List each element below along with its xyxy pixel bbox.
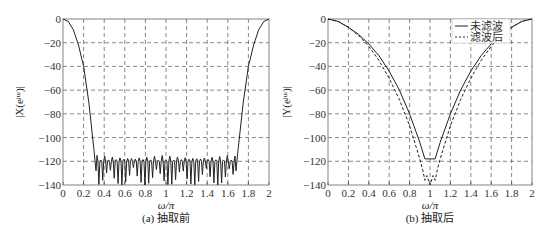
x-tick-label: 1 <box>427 187 433 199</box>
x-axis-label: ω/π <box>158 199 175 211</box>
y-axis-label: |X(eʲᵚ)| <box>13 86 26 118</box>
x-tick-label: 1.8 <box>505 187 519 199</box>
x-tick-label: 1.4 <box>464 187 478 199</box>
legend: 未滤波滤波后 <box>452 19 510 43</box>
x-tick-label: 2 <box>529 187 535 199</box>
y-tick-label: −140 <box>303 179 326 191</box>
x-tick-label: 0.4 <box>97 187 111 199</box>
x-tick-label: 1.8 <box>242 187 256 199</box>
x-tick-label: 0.6 <box>118 187 132 199</box>
y-tick-label: −60 <box>44 84 62 96</box>
y-tick-label: −40 <box>309 60 327 72</box>
x-tick-label: 0 <box>325 187 331 199</box>
x-tick-label: 0 <box>60 187 66 199</box>
y-tick-label: −20 <box>44 37 62 49</box>
x-tick-label: 0.8 <box>139 187 153 199</box>
x-tick-label: 0.2 <box>342 187 356 199</box>
y-tick-label: 0 <box>321 13 327 25</box>
x-tick-label: 0.8 <box>403 187 417 199</box>
x-tick-label: 2 <box>266 187 272 199</box>
x-tick-label: 1.2 <box>180 187 194 199</box>
x-tick-label: 1.2 <box>444 187 458 199</box>
caption-a: (a) 抽取前 <box>142 211 190 225</box>
x-tick-label: 1.6 <box>484 187 498 199</box>
y-tick-label: −100 <box>303 132 326 144</box>
x-tick-label: 0.6 <box>382 187 396 199</box>
y-tick-label: 0 <box>56 13 62 25</box>
y-tick-label: −140 <box>38 179 61 191</box>
y-tick-label: −60 <box>309 84 327 96</box>
y-tick-label: −120 <box>303 155 326 167</box>
x-tick-label: 0.4 <box>362 187 376 199</box>
y-axis-label: |Y(eʲᵚ)| <box>280 86 293 118</box>
y-tick-label: −20 <box>309 37 327 49</box>
legend-label-filtered: 滤波后 <box>470 31 503 43</box>
y-tick-label: −40 <box>44 60 62 72</box>
x-tick-label: 0.2 <box>77 187 91 199</box>
caption-b: (b) 抽取后 <box>406 211 455 225</box>
chart-a: 00.20.40.60.811.21.41.61.820−20−40−60−80… <box>13 13 272 225</box>
y-tick-label: −100 <box>38 132 61 144</box>
chart-b: 00.20.40.60.811.21.41.61.820−20−40−60−80… <box>280 13 535 225</box>
x-axis-label: ω/π <box>422 199 439 211</box>
figure: 00.20.40.60.811.21.41.61.820−20−40−60−80… <box>0 0 553 234</box>
x-tick-label: 1 <box>163 187 169 199</box>
y-tick-label: −80 <box>309 108 327 120</box>
x-tick-label: 1.6 <box>221 187 235 199</box>
y-tick-label: −120 <box>38 155 61 167</box>
y-tick-label: −80 <box>44 108 62 120</box>
x-tick-label: 1.4 <box>200 187 214 199</box>
